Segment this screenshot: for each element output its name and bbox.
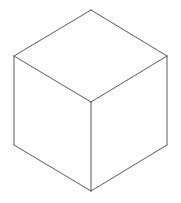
- cube-figure: [0, 0, 181, 203]
- drawing-canvas: [0, 0, 181, 203]
